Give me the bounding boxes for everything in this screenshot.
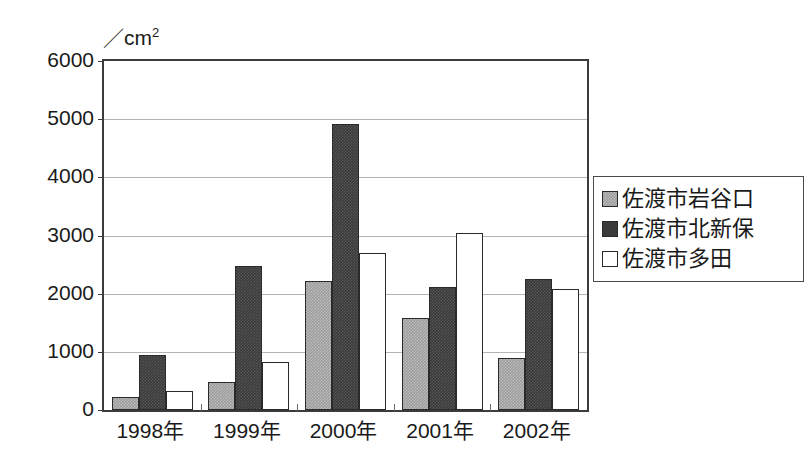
chart-legend: 佐渡市岩谷口佐渡市北新保佐渡市多田: [593, 176, 804, 282]
legend-swatch-icon: [602, 221, 618, 237]
bar: [305, 281, 332, 410]
y-tick-label: 3000: [22, 223, 94, 244]
x-tick-label: 2001年: [406, 418, 474, 443]
x-axis-separator: [201, 404, 202, 411]
legend-item-label: 佐渡市多田: [622, 248, 732, 270]
bar: [332, 124, 359, 410]
y-tick-label: 5000: [22, 107, 94, 128]
x-axis-separator: [297, 404, 298, 411]
bar: [262, 362, 289, 410]
legend-item[interactable]: 佐渡市岩谷口: [602, 184, 797, 214]
y-axis-unit-label: ／cm2: [103, 26, 159, 48]
bar: [166, 391, 193, 410]
bar: [112, 397, 139, 410]
y-tick-label: 4000: [22, 165, 94, 186]
unit-base: cm: [124, 26, 152, 49]
x-axis-separator: [394, 404, 395, 411]
bar: [235, 266, 262, 410]
bar: [139, 355, 166, 410]
y-axis-tick-labels: 0100020003000400050006000: [16, 59, 94, 408]
legend-swatch-icon: [602, 251, 618, 267]
x-tick-label: 1999年: [213, 418, 281, 443]
bar: [402, 318, 429, 410]
legend-item-label: 佐渡市岩谷口: [622, 188, 754, 210]
legend-item[interactable]: 佐渡市多田: [602, 244, 797, 274]
x-tick-label: 2000年: [310, 418, 378, 443]
x-tick-label: 1998年: [116, 418, 184, 443]
bar: [359, 253, 386, 410]
bar: [208, 382, 235, 411]
bar: [525, 279, 552, 410]
bars-layer: [104, 61, 587, 410]
unit-slash: ／: [103, 28, 124, 49]
legend-swatch-icon: [602, 191, 618, 207]
y-tick-label: 0: [22, 398, 94, 419]
unit-superscript: 2: [152, 25, 159, 40]
y-tick-label: 2000: [22, 281, 94, 302]
legend-item-label: 佐渡市北新保: [622, 218, 754, 240]
bar: [498, 358, 525, 410]
bar: [456, 233, 483, 410]
plot-area: [102, 59, 589, 412]
x-tick-label: 2002年: [503, 418, 571, 443]
y-tick-label: 1000: [22, 339, 94, 360]
x-axis-separator: [490, 404, 491, 411]
y-tick-label: 6000: [22, 49, 94, 70]
bar: [429, 287, 456, 410]
bar: [552, 289, 579, 410]
legend-item[interactable]: 佐渡市北新保: [602, 214, 797, 244]
bar-chart-figure: ／cm2 0100020003000400050006000 1998年1999…: [0, 0, 810, 476]
x-axis-tick-labels: 1998年1999年2000年2001年2002年: [102, 418, 589, 454]
y-tickmark: [98, 410, 104, 411]
